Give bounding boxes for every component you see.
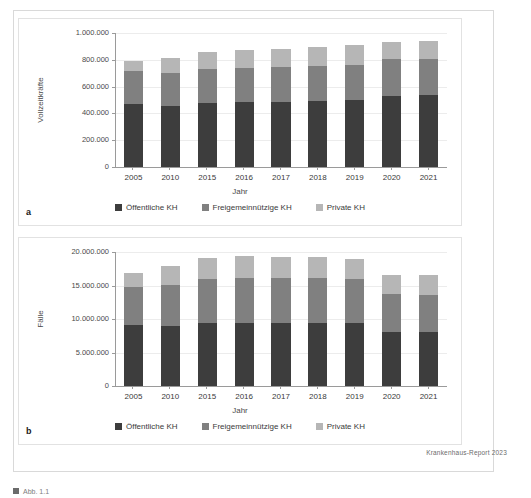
bar-segment[interactable] [198,258,217,279]
stacked-bar[interactable] [235,252,254,386]
bar-segment[interactable] [198,323,217,386]
stacked-bar[interactable] [308,33,327,167]
stacked-bar[interactable] [235,33,254,167]
chart-legend: Öffentliche KHFreigemeinnützige KHPrivat… [19,422,461,431]
bar-segment[interactable] [271,102,290,167]
bar-segment[interactable] [419,295,438,333]
bar-segment[interactable] [124,104,143,167]
x-axis-tick-label: 2015 [189,174,226,182]
bar-segment[interactable] [235,256,254,278]
bar-segment[interactable] [124,287,143,326]
bar-segment[interactable] [308,257,327,278]
bar-segment[interactable] [382,294,401,332]
x-tickmark [169,167,170,170]
bar-segment[interactable] [124,61,143,72]
bar-segment[interactable] [198,103,217,167]
bar-segment[interactable] [161,266,180,285]
bar-segment[interactable] [161,73,180,106]
legend-label: Öffentliche KH [126,203,177,212]
x-tickmark [317,167,318,170]
legend-item[interactable]: Freigemeinnützige KH [202,203,292,212]
stacked-bar[interactable] [382,252,401,386]
bar-segment[interactable] [419,275,438,294]
bar-segment[interactable] [124,273,143,286]
legend-item[interactable]: Öffentliche KH [115,203,177,212]
bar-segment[interactable] [308,101,327,167]
x-axis-tick-label: 2021 [410,393,447,401]
bar-segment[interactable] [124,325,143,386]
bar-segment[interactable] [419,59,438,95]
x-axis-tick-label: 2018 [299,174,336,182]
stacked-bar[interactable] [419,252,438,386]
y-axis-tick-label: 800.000 [33,56,109,64]
bar-segment[interactable] [382,59,401,95]
x-tickmark [280,167,281,170]
bar-segment[interactable] [271,323,290,386]
stacked-bar[interactable] [161,33,180,167]
chart-panel-a: 0200.000400.000600.000800.0001.000.000Vo… [18,18,462,226]
bar-segment[interactable] [308,323,327,386]
bar-segment[interactable] [345,279,364,323]
stacked-bar[interactable] [271,33,290,167]
bar-segment[interactable] [235,278,254,323]
bar-segment[interactable] [382,332,401,386]
stacked-bar[interactable] [124,33,143,167]
x-axis-line [115,167,447,168]
legend-swatch-icon [202,204,209,211]
stacked-bar[interactable] [161,252,180,386]
bar-segment[interactable] [345,45,364,65]
bar-segment[interactable] [382,96,401,167]
bar-segment[interactable] [419,95,438,167]
x-axis-tick-label: 2005 [115,393,152,401]
bar-segment[interactable] [161,106,180,167]
x-axis-tick-label: 2021 [410,174,447,182]
legend-item[interactable]: Öffentliche KH [115,422,177,431]
y-axis-title: Vollzeitkräfte [36,77,45,122]
bar-segment[interactable] [161,326,180,386]
legend-item[interactable]: Private KH [316,422,365,431]
bar-segment[interactable] [382,42,401,60]
stacked-bar[interactable] [198,252,217,386]
bar-segment[interactable] [271,257,290,278]
bar-segment[interactable] [308,47,327,66]
legend-label: Freigemeinnützige KH [213,422,292,431]
bar-segment[interactable] [271,67,290,102]
bar-segment[interactable] [419,41,438,58]
bar-segment[interactable] [308,66,327,101]
y-axis-line [115,252,116,386]
bar-segment[interactable] [235,323,254,386]
stacked-bar[interactable] [198,33,217,167]
bar-segment[interactable] [161,285,180,326]
bar-segment[interactable] [161,58,180,73]
legend-item[interactable]: Private KH [316,203,365,212]
bar-segment[interactable] [419,332,438,386]
bar-segment[interactable] [198,279,217,323]
y-axis-tick-label: 0 [33,163,109,171]
bar-segment[interactable] [345,259,364,280]
legend-item[interactable]: Freigemeinnützige KH [202,422,292,431]
bar-segment[interactable] [345,100,364,167]
bar-segment[interactable] [345,65,364,100]
bar-segment[interactable] [308,278,327,323]
bar-segment[interactable] [271,278,290,323]
stacked-bar[interactable] [419,33,438,167]
stacked-bar[interactable] [271,252,290,386]
x-axis-tick-label: 2019 [336,174,373,182]
legend-label: Freigemeinnützige KH [213,203,292,212]
panel-label-b: b [26,426,32,436]
x-axis-tick-label: 2017 [263,393,300,401]
stacked-bar[interactable] [124,252,143,386]
bar-segment[interactable] [345,323,364,386]
bar-segment[interactable] [198,69,217,104]
stacked-bar[interactable] [345,33,364,167]
bar-segment[interactable] [124,71,143,104]
bar-segment[interactable] [235,102,254,167]
bar-segment[interactable] [198,52,217,69]
bar-segment[interactable] [235,50,254,68]
bar-segment[interactable] [235,68,254,103]
stacked-bar[interactable] [308,252,327,386]
bar-segment[interactable] [382,275,401,294]
stacked-bar[interactable] [382,33,401,167]
bar-segment[interactable] [271,49,290,67]
stacked-bar[interactable] [345,252,364,386]
